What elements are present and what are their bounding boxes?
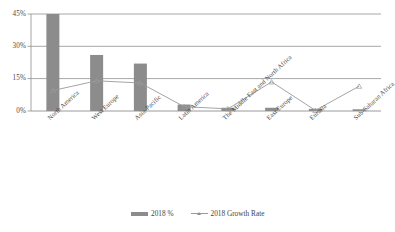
legend-entry-bar[interactable]: 2018 %	[131, 209, 174, 218]
legend-bar-swatch-icon	[131, 212, 148, 216]
legend-line-swatch-icon	[191, 210, 208, 217]
chart-legend: 2018 % 2018 Growth Rate	[131, 209, 264, 218]
y-axis-tick-30: 30%	[0, 42, 26, 50]
legend-bar-label: 2018 %	[151, 209, 174, 218]
y-axis-tick-45: 45%	[0, 10, 26, 18]
legend-entry-line[interactable]: 2018 Growth Rate	[191, 209, 265, 218]
y-axis-ticks	[28, 14, 32, 111]
line-marker-7	[357, 84, 362, 88]
bar-0	[46, 14, 59, 111]
legend-line-label: 2018 Growth Rate	[211, 209, 265, 218]
y-axis-tick-15: 15%	[0, 74, 26, 82]
y-axis-tick-0: 0%	[0, 107, 26, 115]
